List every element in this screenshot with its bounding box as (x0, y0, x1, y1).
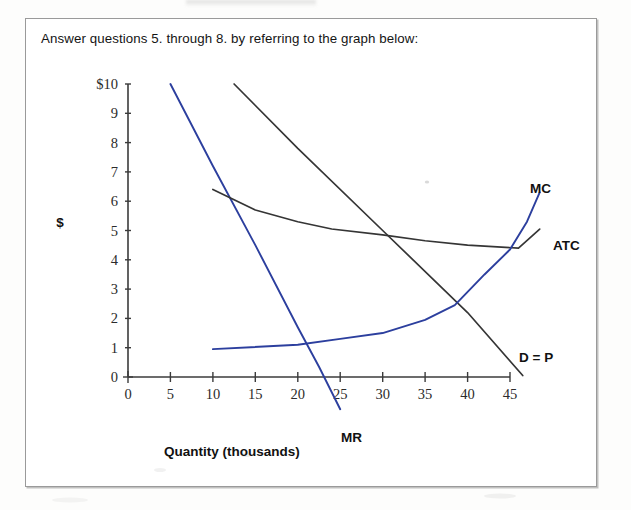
question-prompt: Answer questions 5. through 8. by referr… (41, 31, 418, 46)
scanned-page: Answer questions 5. through 8. by referr… (0, 0, 631, 510)
question-frame: Answer questions 5. through 8. by referr… (25, 18, 597, 487)
scan-speck (484, 494, 516, 499)
scan-smudge (186, 0, 316, 7)
scan-speck (52, 498, 88, 503)
